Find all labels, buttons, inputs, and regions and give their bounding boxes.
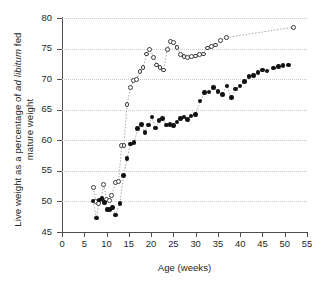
x-axis-tick: [285, 232, 286, 237]
x-axis-tick: [107, 232, 108, 237]
y-axis-tick: [57, 201, 62, 202]
x-axis-tick: [151, 232, 152, 237]
data-point-filled-circles: [286, 63, 291, 68]
y-axis-tick: [57, 79, 62, 80]
y-axis-tick: [57, 49, 62, 50]
y-gridline: [62, 49, 307, 50]
x-axis-tick: [84, 232, 85, 237]
x-axis-tick-label: 15: [117, 238, 141, 249]
x-axis-tick-label: 55: [295, 238, 319, 249]
y-axis-tick: [57, 110, 62, 111]
y-axis-tick-label: 50: [18, 195, 52, 206]
data-point-open-circles: [134, 77, 139, 82]
data-point-open-circles: [147, 47, 152, 52]
data-point-open-circles: [165, 47, 170, 52]
x-axis-tick-label: 0: [50, 238, 74, 249]
data-point-open-circles: [218, 38, 223, 43]
y-axis-tick-label: 45: [18, 226, 52, 237]
connector-line-filled-circles: [93, 65, 288, 218]
x-axis-tick-label: 35: [206, 238, 230, 249]
data-point-open-circles: [101, 182, 106, 187]
y-axis-tick-label: 80: [18, 12, 52, 23]
data-point-filled-circles: [94, 216, 99, 221]
y-axis-tick-label: 60: [18, 134, 52, 145]
data-point-filled-circles: [113, 213, 118, 218]
y-gridline: [62, 171, 307, 172]
plot-area: 45505560657075800510152025303540455055: [62, 18, 307, 232]
x-axis-title: Age (weeks): [62, 262, 307, 273]
data-point-open-circles: [122, 143, 127, 148]
x-axis-tick-label: 40: [228, 238, 252, 249]
data-point-open-circles: [171, 40, 176, 45]
x-axis-tick-label: 5: [72, 238, 96, 249]
x-axis-tick-label: 20: [139, 238, 163, 249]
x-axis-tick-label: 25: [161, 238, 185, 249]
data-point-open-circles: [175, 45, 180, 50]
data-point-open-circles: [116, 179, 121, 184]
y-axis-tick: [57, 171, 62, 172]
data-point-open-circles: [201, 52, 206, 57]
x-axis-tick-label: 50: [273, 238, 297, 249]
data-point-filled-circles: [139, 122, 144, 127]
data-point-filled-circles: [102, 200, 107, 205]
data-point-filled-circles: [160, 116, 165, 121]
y-gridline: [62, 140, 307, 141]
data-point-filled-circles: [281, 63, 286, 68]
y-axis-tick: [57, 18, 62, 19]
x-axis-tick: [262, 232, 263, 237]
data-point-filled-circles: [153, 126, 158, 131]
x-axis-tick: [196, 232, 197, 237]
data-point-open-circles: [109, 193, 114, 198]
data-point-open-circles: [291, 25, 296, 30]
x-axis-tick: [307, 232, 308, 237]
x-axis-tick: [173, 232, 174, 237]
y-axis-title-italic: ad libitum: [12, 49, 23, 91]
x-axis-tick: [62, 232, 63, 237]
data-point-filled-circles: [242, 79, 247, 84]
y-axis-tick-label: 55: [18, 164, 52, 175]
data-point-open-circles: [213, 43, 218, 48]
x-axis-tick: [129, 232, 130, 237]
data-point-open-circles: [151, 55, 156, 60]
data-point-open-circles: [91, 185, 96, 190]
y-gridline: [62, 110, 307, 111]
data-point-filled-circles: [135, 126, 140, 131]
data-point-filled-circles: [220, 92, 225, 97]
y-gridline: [62, 18, 307, 19]
data-point-filled-circles: [211, 85, 216, 90]
y-axis-tick-label: 75: [18, 42, 52, 53]
y-gridline: [62, 79, 307, 80]
x-axis-tick-label: 30: [184, 238, 208, 249]
y-axis-tick: [57, 140, 62, 141]
data-point-filled-circles: [193, 112, 198, 117]
data-point-filled-circles: [121, 173, 126, 178]
data-point-filled-circles: [251, 73, 256, 78]
x-axis-tick: [218, 232, 219, 237]
y-axis-tick-label: 65: [18, 103, 52, 114]
data-point-filled-circles: [143, 130, 148, 135]
data-point-open-circles: [107, 198, 112, 203]
y-axis-tick-label: 70: [18, 73, 52, 84]
data-point-filled-circles: [118, 201, 123, 206]
x-axis-tick-label: 10: [95, 238, 119, 249]
data-point-filled-circles: [171, 123, 176, 128]
data-point-filled-circles: [146, 123, 151, 128]
x-axis-tick: [240, 232, 241, 237]
x-axis-tick-label: 45: [250, 238, 274, 249]
data-point-filled-circles: [229, 95, 234, 100]
data-point-filled-circles: [110, 205, 115, 210]
scatter-chart-figure: Live weight as a percentage of ad libitu…: [0, 0, 321, 282]
data-point-filled-circles: [185, 117, 190, 122]
